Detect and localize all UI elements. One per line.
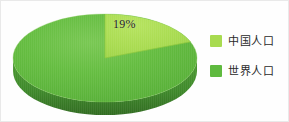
legend-label-world-population: 世界人口 <box>228 65 274 77</box>
legend-item-world-population[interactable]: 世界人口 <box>210 64 288 77</box>
chart-legend: 中国人口 世界人口 <box>210 34 288 77</box>
pie-chart-graphic <box>1 1 206 122</box>
legend-item-china-population[interactable]: 中国人口 <box>210 34 288 47</box>
legend-swatch-world-population <box>210 65 222 77</box>
pie-data-label-19-percent: 19% <box>113 17 136 32</box>
chart-plot-area: 19% <box>1 1 206 122</box>
legend-label-china-population: 中国人口 <box>228 35 274 47</box>
pie-chart-figure: 19% 中国人口 世界人口 <box>0 0 289 122</box>
legend-swatch-china-population <box>210 35 222 47</box>
